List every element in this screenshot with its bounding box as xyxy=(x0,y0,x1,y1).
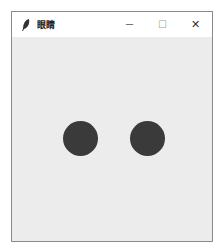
left-eye xyxy=(63,121,98,156)
close-button[interactable]: ✕ xyxy=(179,12,212,37)
feather-icon xyxy=(18,17,34,33)
window-controls: — ☐ ✕ xyxy=(113,12,212,37)
window-title: 眼睛 xyxy=(37,18,55,31)
canvas[interactable] xyxy=(12,37,212,241)
close-icon: ✕ xyxy=(191,18,200,31)
title-bar[interactable]: 眼睛 — ☐ ✕ xyxy=(12,12,212,37)
minimize-icon: — xyxy=(126,20,134,29)
app-window: 眼睛 — ☐ ✕ xyxy=(11,11,213,242)
maximize-button[interactable]: ☐ xyxy=(146,12,179,37)
maximize-icon: ☐ xyxy=(158,19,167,30)
minimize-button[interactable]: — xyxy=(113,12,146,37)
right-eye xyxy=(130,121,165,156)
